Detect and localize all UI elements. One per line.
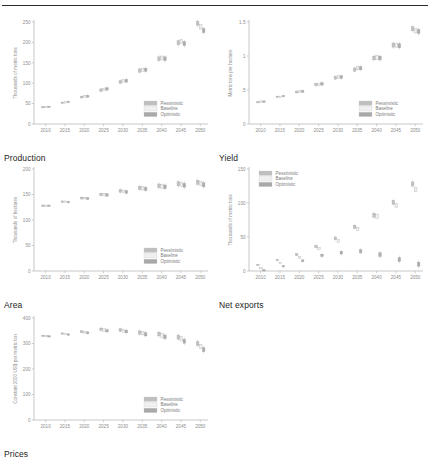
svg-text:2040: 2040	[156, 128, 167, 133]
svg-text:Optimistic: Optimistic	[161, 112, 182, 117]
svg-text:2020: 2020	[79, 424, 90, 429]
svg-text:0: 0	[28, 122, 31, 127]
svg-text:0: 0	[28, 418, 31, 423]
svg-text:250: 250	[23, 20, 31, 25]
svg-text:2020: 2020	[79, 275, 90, 280]
svg-text:Pessimistic: Pessimistic	[161, 397, 184, 402]
plot-area: 0501001502002010201520202025203020352040…	[0, 159, 215, 291]
panel-yield: 0.511.5201020152020202520302035204020452…	[215, 12, 430, 167]
svg-text:2040: 2040	[156, 275, 167, 280]
svg-text:2010: 2010	[40, 275, 51, 280]
svg-text:100: 100	[23, 392, 31, 397]
svg-text:400: 400	[23, 316, 31, 321]
svg-text:2035: 2035	[137, 424, 148, 429]
svg-text:2025: 2025	[98, 128, 109, 133]
svg-text:2015: 2015	[60, 424, 71, 429]
svg-text:2030: 2030	[118, 424, 129, 429]
svg-text:Baseline: Baseline	[376, 106, 394, 111]
svg-text:100: 100	[238, 201, 246, 206]
svg-text:50: 50	[25, 101, 31, 106]
svg-text:1.5: 1.5	[239, 20, 246, 25]
svg-text:150: 150	[23, 192, 31, 197]
svg-text:2035: 2035	[137, 128, 148, 133]
svg-text:2040: 2040	[371, 275, 382, 280]
svg-text:150: 150	[238, 167, 246, 172]
svg-text:2045: 2045	[176, 424, 187, 429]
svg-text:2050: 2050	[195, 128, 206, 133]
svg-text:Optimistic: Optimistic	[276, 182, 297, 187]
svg-text:2040: 2040	[371, 128, 382, 133]
panel-net-exports: 0501001502010201520202025203020352040204…	[215, 159, 430, 314]
plot-prices: 0100200300400201020152020202520302035204…	[0, 308, 215, 440]
svg-text:2035: 2035	[352, 128, 363, 133]
svg-text:0: 0	[243, 269, 246, 274]
svg-text:2045: 2045	[391, 128, 402, 133]
svg-text:300: 300	[23, 341, 31, 346]
svg-text:200: 200	[23, 167, 31, 172]
panel-area: 0501001502002010201520202025203020352040…	[0, 159, 215, 314]
svg-text:50: 50	[25, 243, 31, 248]
svg-text:100: 100	[23, 218, 31, 223]
svg-text:Baseline: Baseline	[276, 176, 294, 181]
svg-text:200: 200	[23, 40, 31, 45]
plot-production: 0501001502002502010201520202025203020352…	[0, 12, 215, 144]
svg-text:2025: 2025	[313, 275, 324, 280]
svg-text:Baseline: Baseline	[161, 106, 179, 111]
svg-text:2045: 2045	[176, 128, 187, 133]
svg-text:Thousands of hectares: Thousands of hectares	[13, 196, 18, 243]
svg-text:.5: .5	[242, 88, 246, 93]
svg-text:200: 200	[23, 367, 31, 372]
svg-text:100: 100	[23, 81, 31, 86]
svg-text:2010: 2010	[40, 424, 51, 429]
svg-text:2010: 2010	[255, 128, 266, 133]
svg-text:2010: 2010	[255, 275, 266, 280]
svg-text:0: 0	[28, 269, 31, 274]
svg-text:2015: 2015	[275, 275, 286, 280]
svg-text:2050: 2050	[195, 275, 206, 280]
svg-text:2020: 2020	[294, 275, 305, 280]
svg-text:Optimistic: Optimistic	[376, 112, 397, 117]
svg-text:2035: 2035	[137, 275, 148, 280]
plot-net-exports: 0501001502010201520202025203020352040204…	[215, 159, 430, 291]
svg-text:2015: 2015	[60, 275, 71, 280]
svg-text:0: 0	[243, 122, 246, 127]
plot-yield: 0.511.5201020152020202520302035204020452…	[215, 12, 430, 144]
svg-text:2025: 2025	[98, 275, 109, 280]
svg-text:50: 50	[240, 235, 246, 240]
svg-text:Metric tons per hectare: Metric tons per hectare	[228, 49, 233, 96]
svg-text:2050: 2050	[195, 424, 206, 429]
svg-text:Pessimistic: Pessimistic	[376, 101, 399, 106]
svg-text:Baseline: Baseline	[161, 253, 179, 258]
svg-text:2040: 2040	[156, 424, 167, 429]
svg-text:2050: 2050	[410, 275, 421, 280]
svg-text:Optimistic: Optimistic	[161, 259, 182, 264]
chart-grid: 0501001502002502010201520202025203020352…	[0, 8, 430, 464]
svg-text:2030: 2030	[118, 275, 129, 280]
svg-text:2030: 2030	[118, 128, 129, 133]
panel-production: 0501001502002502010201520202025203020352…	[0, 12, 215, 167]
svg-text:2045: 2045	[391, 275, 402, 280]
svg-text:Optimistic: Optimistic	[161, 408, 182, 413]
svg-text:2025: 2025	[98, 424, 109, 429]
svg-text:2015: 2015	[60, 128, 71, 133]
panel-caption-prices: Prices	[4, 449, 28, 459]
svg-text:Baseline: Baseline	[161, 402, 179, 407]
svg-text:2010: 2010	[40, 128, 51, 133]
svg-text:2035: 2035	[352, 275, 363, 280]
svg-text:2020: 2020	[79, 128, 90, 133]
svg-text:Pessimistic: Pessimistic	[161, 101, 184, 106]
svg-text:Thousands of metric tons: Thousands of metric tons	[13, 47, 18, 99]
svg-text:Thousands of metric tons: Thousands of metric tons	[228, 194, 233, 246]
svg-text:Pessimistic: Pessimistic	[276, 171, 299, 176]
svg-text:2020: 2020	[294, 128, 305, 133]
svg-text:2050: 2050	[410, 128, 421, 133]
svg-text:Pessimistic: Pessimistic	[161, 248, 184, 253]
panel-caption-net-exports: Net exports	[219, 300, 264, 310]
svg-text:Constant 2000 US$ per metric t: Constant 2000 US$ per metric ton	[13, 334, 18, 404]
svg-text:2045: 2045	[176, 275, 187, 280]
svg-text:1: 1	[243, 54, 246, 59]
svg-text:2025: 2025	[313, 128, 324, 133]
svg-text:2030: 2030	[333, 128, 344, 133]
panel-prices: 0100200300400201020152020202520302035204…	[0, 308, 215, 463]
svg-text:2030: 2030	[333, 275, 344, 280]
